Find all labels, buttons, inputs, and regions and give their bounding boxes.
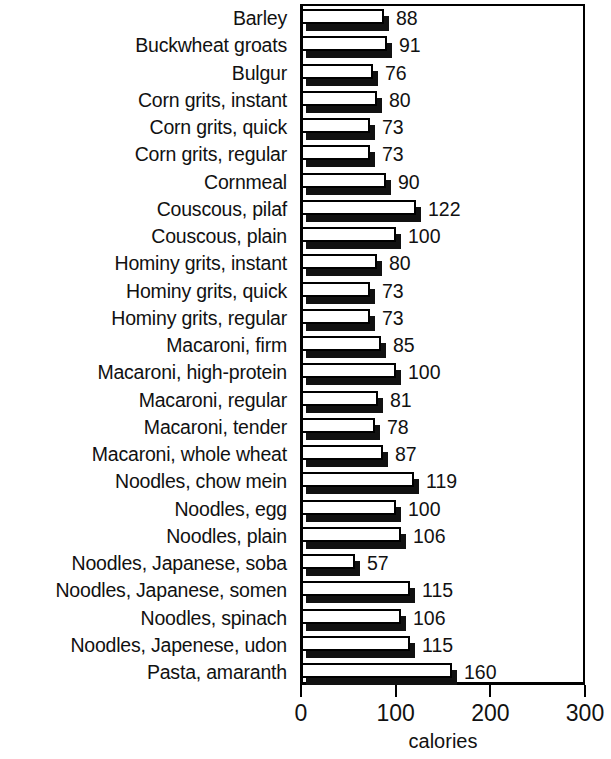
category-label: Noodles, chow mein (0, 471, 287, 491)
x-tick-mark (489, 685, 491, 697)
x-tick-mark (300, 685, 302, 697)
category-label: Noodles, egg (0, 499, 287, 519)
category-label: Macaroni, firm (0, 335, 287, 355)
category-label: Noodles, plain (0, 526, 287, 546)
plot-area-frame (300, 4, 585, 685)
x-tick-label: 100 (366, 700, 426, 726)
category-label: Noodles, Japanese, somen (0, 580, 287, 600)
category-label: Hominy grits, regular (0, 308, 287, 328)
category-label: Couscous, plain (0, 226, 287, 246)
category-label: Corn grits, instant (0, 90, 287, 110)
x-tick-label: 0 (271, 700, 331, 726)
category-label: Hominy grits, instant (0, 253, 287, 273)
category-label: Buckwheat groats (0, 35, 287, 55)
category-label: Couscous, pilaf (0, 199, 287, 219)
category-label: Cornmeal (0, 172, 287, 192)
category-label: Corn grits, quick (0, 117, 287, 137)
category-label: Bulgur (0, 63, 287, 83)
category-label: Macaroni, regular (0, 390, 287, 410)
category-label: Macaroni, tender (0, 417, 287, 437)
category-label: Noodles, Japenese, udon (0, 635, 287, 655)
category-label: Macaroni, high-protein (0, 362, 287, 382)
category-label: Pasta, amaranth (0, 662, 287, 682)
category-label: Corn grits, regular (0, 144, 287, 164)
x-axis-title: calories (300, 730, 586, 752)
x-tick-label: 300 (555, 700, 611, 726)
bar-chart: BarleyBuckwheat groatsBulgurCorn grits, … (0, 0, 611, 759)
category-label: Barley (0, 8, 287, 28)
category-axis: BarleyBuckwheat groatsBulgurCorn grits, … (0, 0, 295, 690)
category-label: Macaroni, whole wheat (0, 444, 287, 464)
x-tick-label: 200 (460, 700, 520, 726)
x-tick-mark (584, 685, 586, 697)
category-label: Hominy grits, quick (0, 281, 287, 301)
category-label: Noodles, Japanese, soba (0, 553, 287, 573)
category-label: Noodles, spinach (0, 608, 287, 628)
x-tick-mark (395, 685, 397, 697)
